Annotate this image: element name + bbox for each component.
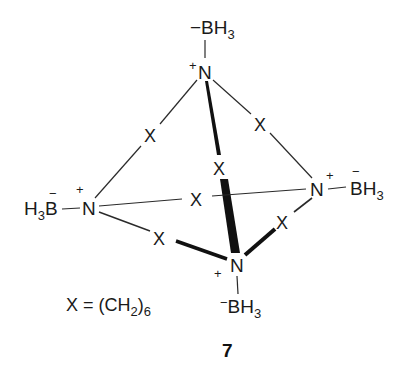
- right-boron-label: BH3: [350, 178, 384, 203]
- cage-structure-diagram: −BH3 N + H3B − N + N + BH3 − N + −BH3 X …: [0, 0, 398, 375]
- bridge-top-bottom-wedge-a: [205, 81, 221, 155]
- bridge-top-bottom-wedge-b: [220, 179, 240, 253]
- bridge-label-left-right: X: [190, 190, 202, 210]
- bond-right-n-b: [328, 187, 346, 189]
- bridge-label-left-bottom: X: [153, 229, 165, 249]
- bridge-label-top-left: X: [144, 126, 156, 146]
- bridge-label-top-bottom: X: [213, 159, 225, 179]
- left-boron-charge: −: [49, 186, 57, 201]
- bridge-left-bottom-a: [99, 212, 150, 231]
- top-nitrogen-charge: +: [189, 58, 197, 73]
- left-boron-label: H3B: [24, 198, 58, 223]
- bridge-top-left-b: [95, 146, 141, 198]
- bridge-left-right-a: [99, 199, 182, 206]
- bridge-label-top-right: X: [254, 115, 266, 135]
- bottom-boron-label: −BH3: [220, 295, 261, 321]
- legend-definition: X = (CH2)6: [66, 295, 151, 319]
- bridge-right-bottom-a: [294, 198, 312, 212]
- bridge-label-right-bottom: X: [276, 213, 288, 233]
- bottom-nitrogen-label: N: [230, 255, 244, 276]
- left-nitrogen-label: N: [82, 198, 96, 219]
- right-nitrogen-label: N: [310, 179, 324, 200]
- top-boron-label: −BH3: [190, 17, 235, 42]
- bond-left-n-b: [62, 208, 80, 209]
- bridge-left-bottom-b: [176, 241, 227, 259]
- bottom-nitrogen-charge: +: [214, 266, 222, 281]
- compound-number: 7: [222, 340, 233, 361]
- top-nitrogen-label: N: [198, 62, 212, 83]
- bridge-top-right-b: [270, 133, 312, 178]
- bridge-top-right-a: [213, 80, 251, 114]
- right-boron-charge: −: [352, 164, 360, 179]
- bridge-right-bottom-b: [245, 229, 275, 255]
- bridge-top-left-a: [160, 80, 197, 124]
- left-nitrogen-charge: +: [76, 182, 84, 197]
- bond-bottom-n-b: [237, 276, 238, 294]
- right-nitrogen-charge: +: [326, 168, 334, 183]
